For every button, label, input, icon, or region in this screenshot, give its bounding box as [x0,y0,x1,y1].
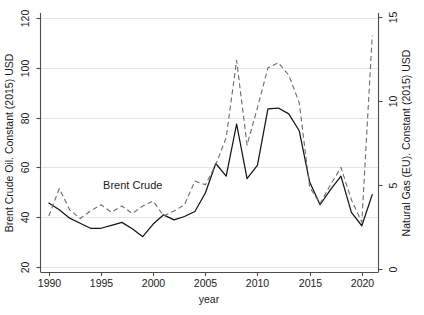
x-tick-label: 2015 [299,277,323,289]
x-tick-label: 1990 [38,277,62,289]
chart-container: 20406080100120 051015 199019952000200520… [0,0,424,315]
left-tick-label: 120 [19,10,31,28]
price-comparison-line-chart: 20406080100120 051015 199019952000200520… [0,0,424,315]
left-tick-label: 40 [19,212,31,224]
left-tick-label: 80 [19,113,31,125]
x-tick-label: 2020 [351,277,375,289]
right-tick-label: 5 [387,182,399,188]
x-tick-label: 2000 [142,277,166,289]
left-tick-label: 20 [19,262,31,274]
left-tick-label: 60 [19,162,31,174]
right-tick-label: 15 [387,12,399,24]
right-axis-title: Natural Gas (EU). Constant (2015) USD [400,49,412,236]
x-tick-label: 1995 [90,277,114,289]
left-tick-label: 100 [19,60,31,78]
x-axis-title: year [199,293,220,305]
left-axis-title: Brent Crude Oil. Constant (2015) USD [3,53,15,232]
right-tick-label: 10 [387,96,399,108]
series-label-brent-crude: Brent Crude [103,179,162,191]
x-tick-label: 2010 [246,277,270,289]
x-tick-label: 2005 [194,277,218,289]
right-tick-label: 0 [387,266,399,272]
